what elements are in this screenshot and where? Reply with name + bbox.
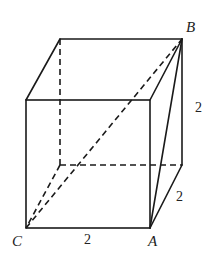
vertex-label-A: A	[147, 233, 158, 249]
edge-label-vertical: 2	[195, 100, 202, 115]
front-face	[26, 100, 150, 228]
edge-label-bottom: 2	[84, 232, 91, 247]
vertex-label-C: C	[12, 233, 23, 249]
hidden-bottom-left-edge	[26, 165, 60, 228]
edge-label-depth: 2	[176, 189, 183, 204]
diagonal-CB	[26, 39, 182, 228]
vertex-label-B: B	[186, 19, 195, 35]
top-left-edge	[26, 39, 60, 100]
cube-diagram: B 2 2 C 2 A	[0, 0, 213, 253]
